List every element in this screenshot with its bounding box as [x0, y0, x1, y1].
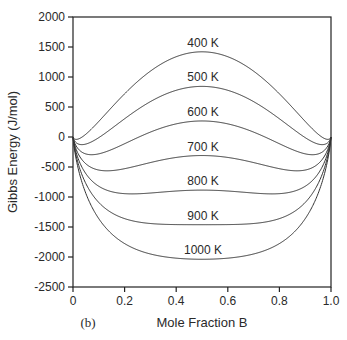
curve-400k	[73, 52, 331, 140]
gibbs-energy-chart: 2000150010005000-500-1000-1500-2000-2500…	[0, 0, 347, 340]
y-tick-label: 500	[45, 100, 65, 114]
y-tick-label: 0	[58, 130, 65, 144]
curve-label: 900 K	[187, 209, 218, 223]
curve-label: 800 K	[187, 174, 218, 188]
y-tick-label: -1500	[34, 220, 65, 234]
x-tick-label: 0.6	[219, 294, 236, 308]
curve-label: 700 K	[187, 140, 218, 154]
x-tick-label: 0.8	[271, 294, 288, 308]
curve-labels: 400 K500 K600 K700 K800 K900 K1000 K	[184, 36, 222, 257]
y-axis-label: Gibbs Energy (J/mol)	[5, 91, 20, 213]
y-tick-label: 1500	[38, 40, 65, 54]
y-tick-label: 2000	[38, 10, 65, 24]
x-axis-label: Mole Fraction B	[156, 315, 247, 330]
y-tick-label: -1000	[34, 190, 65, 204]
x-tick-label: 0	[70, 294, 77, 308]
curve-label: 1000 K	[184, 243, 222, 257]
y-tick-label: 1000	[38, 70, 65, 84]
y-tick-label: -500	[41, 160, 65, 174]
curve-label: 600 K	[187, 105, 218, 119]
y-tick-label: -2000	[34, 250, 65, 264]
x-tick-label: 0.2	[116, 294, 133, 308]
curve-label: 400 K	[187, 36, 218, 50]
curve-label: 500 K	[187, 70, 218, 84]
y-tick-label: -2500	[34, 280, 65, 294]
x-tick-label: 1.0	[323, 294, 340, 308]
axes: 2000150010005000-500-1000-1500-2000-2500…	[34, 10, 339, 308]
panel-label: (b)	[80, 315, 95, 330]
x-tick-label: 0.4	[168, 294, 185, 308]
